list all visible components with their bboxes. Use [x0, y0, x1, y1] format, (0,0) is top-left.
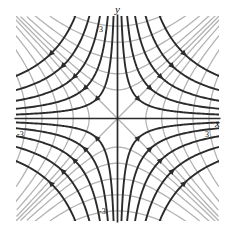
y-tick-label-negative: -3: [99, 208, 106, 216]
orthogonal-curve: [162, 25, 220, 209]
orthogonal-curve: [27, 163, 209, 222]
x-tick-label-positive: 3: [205, 131, 209, 139]
phase-portrait-figure: y x -3 3 3 -3: [0, 0, 235, 237]
y-axis-label: y: [115, 4, 120, 15]
orthogonal-curve: [27, 15, 209, 74]
phase-portrait-canvas: [0, 0, 235, 237]
y-tick-label-positive: 3: [99, 26, 103, 34]
x-tick-label-negative: -3: [17, 131, 24, 139]
orthogonal-curve: [15, 25, 73, 209]
x-axis-label: x: [215, 118, 220, 129]
